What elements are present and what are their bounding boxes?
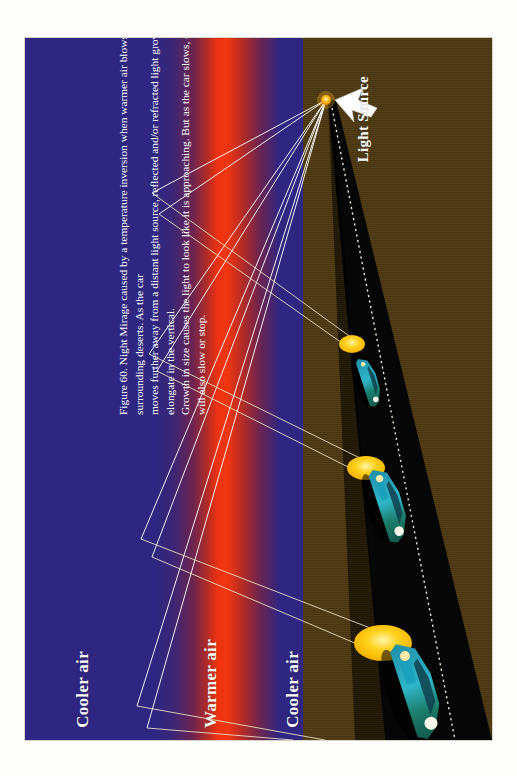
label-light-source: Light Source: [355, 76, 372, 162]
label-warmer-air: Warmer air: [201, 639, 221, 728]
caption-line-3: Growth in size causes the light to look …: [178, 38, 209, 415]
reflected-ray-group-3: [141, 539, 383, 655]
caption-line-2: moves further away from a distant light …: [147, 38, 178, 415]
scene-artwork: [25, 38, 492, 740]
figure-caption: Figure 60. Night Mirage caused by a temp…: [116, 38, 210, 417]
caption-line-1: Figure 60. Night Mirage caused by a temp…: [116, 38, 147, 415]
figure-page: Cooler air Warmer air Cooler air Light S…: [0, 0, 517, 776]
figure-caption-container: Figure 60. Night Mirage caused by a temp…: [116, 38, 180, 417]
mirage-image-1: [339, 335, 365, 353]
figure-plate: Cooler air Warmer air Cooler air Light S…: [25, 38, 492, 740]
light-source-dot: [321, 95, 331, 105]
label-cooler-air-right: Cooler air: [283, 651, 303, 728]
label-cooler-air-left: Cooler air: [73, 651, 93, 728]
